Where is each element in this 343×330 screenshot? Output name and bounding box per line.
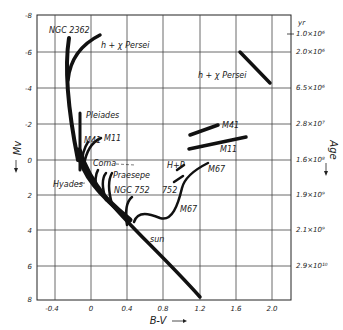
svg-text:-6: -6 bbox=[25, 49, 33, 57]
y-arrow-head bbox=[14, 168, 18, 173]
svg-text:M67: M67 bbox=[180, 205, 198, 214]
svg-text:M11: M11 bbox=[104, 134, 121, 143]
svg-text:2.8×10⁷: 2.8×10⁷ bbox=[296, 120, 325, 128]
y-tick-labels: -8 -6 -4 -2 0 2 4 6 8 bbox=[25, 12, 33, 304]
age-tick-labels: 1.0×10⁶ 2.0×10⁶ 6.5×10⁶ 2.8×10⁷ 1.6×10⁸ … bbox=[287, 30, 328, 270]
svg-text:0.4: 0.4 bbox=[121, 305, 132, 313]
y-axis-left-label: Mv bbox=[12, 140, 23, 156]
svg-text:H+P: H+P bbox=[167, 161, 185, 170]
svg-text:M11: M11 bbox=[220, 145, 237, 154]
cluster-tracks bbox=[67, 35, 208, 297]
svg-text:NGC 2362: NGC 2362 bbox=[49, 26, 90, 35]
svg-text:-0.4: -0.4 bbox=[45, 305, 59, 313]
svg-text:-8: -8 bbox=[25, 12, 33, 20]
svg-text:Hyades: Hyades bbox=[53, 180, 83, 189]
svg-text:Praesepe: Praesepe bbox=[113, 171, 150, 180]
svg-text:2.9×10¹⁰: 2.9×10¹⁰ bbox=[296, 262, 328, 270]
svg-text:1.9×10⁹: 1.9×10⁹ bbox=[296, 191, 325, 199]
svg-text:1.6×10⁸: 1.6×10⁸ bbox=[296, 156, 325, 164]
svg-text:1.2: 1.2 bbox=[194, 305, 206, 313]
svg-text:8: 8 bbox=[28, 296, 33, 304]
grid-horizontal bbox=[37, 52, 291, 266]
svg-text:Coma: Coma bbox=[93, 159, 116, 168]
svg-text:0: 0 bbox=[28, 157, 33, 165]
svg-text:h + χ Persei: h + χ Persei bbox=[198, 71, 247, 80]
age-tracks bbox=[189, 52, 270, 149]
svg-text:h + χ Persei: h + χ Persei bbox=[101, 41, 150, 50]
svg-text:2.0: 2.0 bbox=[266, 305, 278, 313]
svg-text:6: 6 bbox=[28, 263, 33, 271]
svg-text:M41: M41 bbox=[84, 136, 101, 145]
svg-text:M67: M67 bbox=[208, 165, 226, 174]
svg-text:1.6: 1.6 bbox=[230, 305, 242, 313]
hr-diagram: -8 -6 -4 -2 0 2 4 6 8 -0.4 0 0.4 0.8 1.2… bbox=[0, 0, 343, 330]
x-axis-label: B-V bbox=[150, 315, 168, 326]
age-unit: yr bbox=[297, 19, 306, 27]
svg-text:0: 0 bbox=[89, 305, 94, 313]
svg-text:752: 752 bbox=[162, 186, 177, 195]
svg-text:-2: -2 bbox=[25, 121, 33, 129]
svg-text:M41: M41 bbox=[222, 121, 239, 130]
svg-text:2: 2 bbox=[28, 192, 33, 200]
svg-text:1.0×10⁶: 1.0×10⁶ bbox=[296, 30, 325, 38]
svg-text:NGC 752: NGC 752 bbox=[114, 186, 150, 195]
age-arrow-head bbox=[324, 171, 328, 176]
svg-text:0.8: 0.8 bbox=[157, 305, 169, 313]
svg-text:2.0×10⁶: 2.0×10⁶ bbox=[296, 48, 325, 56]
y-axis-right-label: Age bbox=[328, 139, 339, 159]
svg-text:4: 4 bbox=[28, 227, 32, 235]
x-arrow-head bbox=[183, 319, 187, 323]
svg-text:6.5×10⁶: 6.5×10⁶ bbox=[296, 84, 325, 92]
svg-text:Pleiades: Pleiades bbox=[86, 111, 119, 120]
svg-text:2.1×10⁹: 2.1×10⁹ bbox=[296, 226, 325, 234]
x-tick-labels: -0.4 0 0.4 0.8 1.2 1.6 2.0 bbox=[45, 305, 278, 313]
svg-text:-4: -4 bbox=[25, 85, 32, 93]
svg-text:sun: sun bbox=[150, 235, 164, 244]
